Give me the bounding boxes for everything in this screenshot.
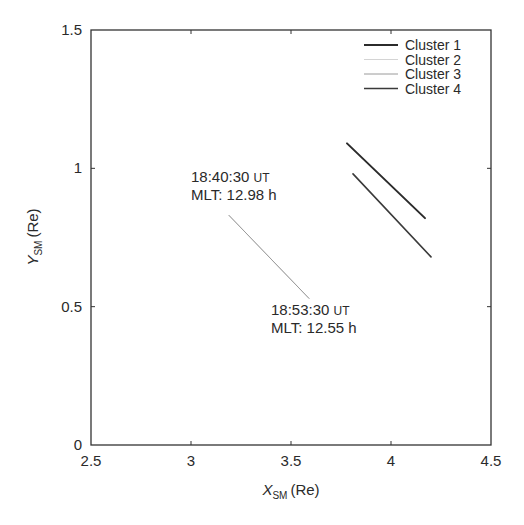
- series-cluster-3: [229, 215, 309, 298]
- x-tick-label: 4.5: [481, 452, 502, 469]
- annotation-mlt: MLT: 12.98 h: [191, 186, 277, 203]
- y-tick-label: 0.5: [61, 298, 82, 315]
- annotation-time: 18:40:30 UT: [191, 168, 270, 185]
- annotation-1: 18:40:30 UTMLT: 12.98 h: [191, 168, 277, 203]
- y-tick-label: 0: [74, 436, 82, 453]
- series-layer: [229, 143, 431, 298]
- x-tick-label: 3.5: [281, 452, 302, 469]
- annotation-time: 18:53:30 UT: [271, 301, 350, 318]
- x-tick-label: 3: [187, 452, 195, 469]
- x-axis-label: XSM(Re): [261, 481, 319, 501]
- y-tick-label: 1: [74, 159, 82, 176]
- legend-label: Cluster 4: [405, 81, 461, 97]
- x-tick-label: 2.5: [81, 452, 102, 469]
- chart: 2.533.544.5 00.511.5 18:40:30 UTMLT: 12.…: [0, 0, 524, 525]
- y-tick-label: 1.5: [61, 21, 82, 38]
- legend: Cluster 1Cluster 2Cluster 3Cluster 4: [364, 37, 461, 97]
- x-tick-label: 4: [387, 452, 395, 469]
- y-axis-label: YSM(Re): [24, 208, 44, 265]
- annotation-2: 18:53:30 UTMLT: 12.55 h: [271, 301, 357, 336]
- annotation-layer: 18:40:30 UTMLT: 12.98 h18:53:30 UTMLT: 1…: [191, 168, 357, 336]
- legend-item-cluster-4: Cluster 4: [364, 81, 461, 97]
- annotation-mlt: MLT: 12.55 h: [271, 319, 357, 336]
